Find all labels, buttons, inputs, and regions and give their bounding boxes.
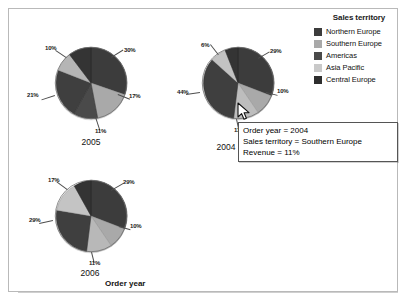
pie-caption-2006: 2006 bbox=[70, 268, 110, 278]
legend-item-label: Northern Europe bbox=[326, 27, 381, 36]
axis-title-order-year: Order year bbox=[105, 279, 145, 288]
slice-label-2006-1: 29% bbox=[123, 179, 134, 185]
legend-item-label: Central Europe bbox=[326, 75, 376, 84]
slice-label-2006-3: 11% bbox=[89, 260, 100, 266]
legend-item-label: Asia Pacific bbox=[326, 63, 364, 72]
slice-label-2006-2: 10% bbox=[130, 223, 141, 229]
slice-label-2004-1: 29% bbox=[270, 48, 281, 54]
legend-item-americas[interactable]: Americas bbox=[314, 50, 404, 61]
pie-svg-2006 bbox=[53, 178, 129, 254]
pie-chart-2004[interactable] bbox=[200, 45, 276, 121]
pie-panel-2006: 29% 10% 11% 29% 17% 2006 bbox=[33, 164, 153, 284]
legend-item-label: Americas bbox=[326, 51, 357, 60]
legend-item-northern-europe[interactable]: Northern Europe bbox=[314, 26, 404, 37]
legend: Sales territory Northern Europe Southern… bbox=[314, 13, 404, 86]
slice-label-2006-5: 17% bbox=[48, 177, 59, 183]
pie-caption-2005: 2005 bbox=[71, 137, 111, 147]
legend-swatch-icon bbox=[314, 76, 322, 84]
pie-panel-2005: 30% 17% 11% 21% 10% 2005 bbox=[33, 31, 153, 151]
legend-swatch-icon bbox=[314, 40, 322, 48]
chart-frame: Sales territory Northern Europe Southern… bbox=[8, 8, 398, 292]
axis-rule bbox=[18, 292, 398, 293]
pie-chart-2006[interactable] bbox=[53, 178, 129, 254]
tooltip-line-sales-territory: Sales territory = Southern Europe bbox=[243, 136, 393, 147]
slice-label-2004-4: 44% bbox=[177, 89, 188, 95]
legend-swatch-icon bbox=[314, 28, 322, 36]
leader-line bbox=[39, 220, 53, 224]
tooltip-line-order-year: Order year = 2004 bbox=[243, 125, 393, 136]
legend-item-southern-europe[interactable]: Southern Europe bbox=[314, 38, 404, 49]
legend-item-asia-pacific[interactable]: Asia Pacific bbox=[314, 62, 404, 73]
slice-label-2005-4: 21% bbox=[27, 92, 38, 98]
legend-swatch-icon bbox=[314, 52, 322, 60]
slice-label-2005-2: 17% bbox=[129, 93, 140, 99]
slice-label-2005-3: 11% bbox=[95, 128, 106, 134]
tooltip: Order year = 2004 Sales territory = Sout… bbox=[238, 122, 398, 162]
legend-title: Sales territory bbox=[314, 13, 404, 22]
tooltip-line-revenue: Revenue = 11% bbox=[243, 147, 393, 158]
legend-swatch-icon bbox=[314, 64, 322, 72]
pie-svg-2004 bbox=[200, 45, 276, 121]
legend-item-label: Southern Europe bbox=[326, 39, 382, 48]
slice-label-2006-4: 29% bbox=[29, 217, 40, 223]
slice-label-2004-5: 6% bbox=[201, 42, 209, 48]
slice-label-2005-5: 10% bbox=[45, 45, 56, 51]
legend-item-central-europe[interactable]: Central Europe bbox=[314, 74, 404, 85]
slice-label-2004-2: 10% bbox=[277, 88, 288, 94]
slice-label-2005-1: 30% bbox=[124, 47, 135, 53]
